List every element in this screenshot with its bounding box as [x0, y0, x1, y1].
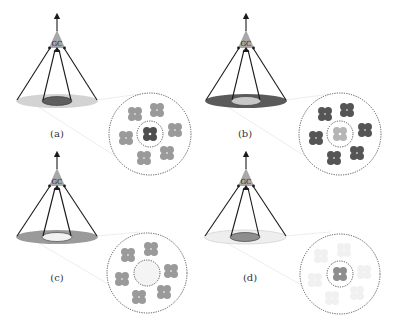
connector-line: [285, 232, 330, 236]
synapse-dot: [63, 185, 66, 188]
zoom-circle: [107, 233, 187, 313]
cone-line: [43, 188, 55, 236]
panel-a: GC (a): [16, 16, 191, 175]
cone-line: [59, 50, 71, 100]
inner-receptive-field: [231, 97, 261, 106]
panel-label: (b): [238, 128, 252, 139]
zoom-circle: [300, 234, 380, 314]
cone-line: [59, 188, 71, 236]
synapse-dot: [63, 47, 66, 50]
inner-receptive-field: [42, 97, 72, 106]
panel-label: (c): [50, 272, 64, 283]
cone-line: [248, 188, 259, 236]
gc-label: GC: [52, 178, 63, 186]
cone-line: [253, 186, 286, 236]
synapse-dot: [48, 185, 51, 188]
panel-label: (a): [50, 128, 64, 139]
inner-receptive-field: [42, 233, 72, 242]
inner-receptive-field: [230, 233, 260, 242]
cone-line: [205, 186, 239, 236]
gc-label: GC: [241, 40, 252, 48]
synapse-dot: [237, 47, 240, 50]
gc-label: GC: [241, 178, 252, 186]
panel-b: GC (b): [205, 16, 381, 175]
synapse-dot: [48, 47, 51, 50]
zoom-circle: [109, 93, 191, 175]
receptive-field-figure: GC (a): [0, 0, 395, 326]
zoom-circle: [299, 93, 381, 175]
cone-line: [232, 50, 244, 100]
synapse-dot: [252, 47, 255, 50]
panel-label: (d): [243, 272, 257, 283]
cone-line: [43, 50, 55, 100]
panel-d: GC (d): [204, 154, 380, 314]
gc-label: GC: [52, 40, 63, 48]
synapse-dot: [252, 185, 255, 188]
cone-line: [248, 50, 260, 100]
synapse-dot: [237, 185, 240, 188]
panel-c: GC (c): [16, 154, 187, 313]
